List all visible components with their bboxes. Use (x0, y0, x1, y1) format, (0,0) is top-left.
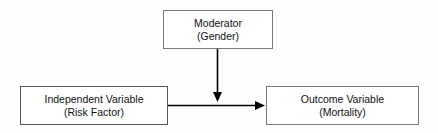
node-outcome-variable-line1: Outcome Variable (301, 93, 384, 105)
node-outcome-variable: Outcome Variable (Mortality) (266, 86, 419, 125)
node-outcome-variable-line2: (Mortality) (319, 106, 366, 118)
node-moderator-line1: Moderator (194, 17, 242, 29)
node-independent-variable-line1: Independent Variable (44, 93, 143, 105)
edge-moderator-to-path (213, 49, 222, 102)
moderation-diagram: Moderator (Gender) Independent Variable … (0, 0, 438, 133)
node-independent-variable-line2: (Risk Factor) (64, 106, 124, 118)
edge-independent-to-outcome-arrowhead (255, 101, 265, 110)
edge-independent-to-outcome (168, 101, 265, 110)
node-independent-variable: Independent Variable (Risk Factor) (20, 86, 168, 125)
node-moderator: Moderator (Gender) (163, 10, 273, 49)
node-moderator-line2: (Gender) (197, 30, 239, 42)
edge-moderator-to-path-arrowhead (213, 92, 222, 102)
